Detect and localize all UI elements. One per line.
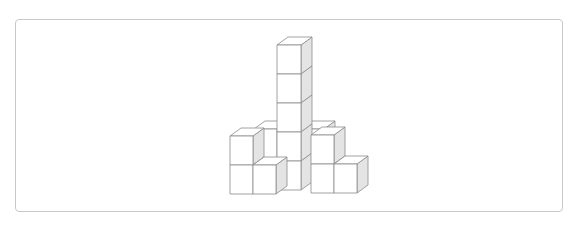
cube-front-face — [334, 164, 357, 193]
cube-front-face — [253, 165, 276, 194]
cube-front-face — [311, 135, 334, 164]
cube-front-face — [230, 165, 253, 194]
cube-front-face — [277, 103, 301, 132]
cube-stack-diagram — [0, 0, 578, 227]
cube-front-face — [311, 164, 334, 193]
cube-front-face — [277, 45, 301, 74]
cube-right-low — [334, 156, 368, 193]
cube-front-face — [230, 136, 253, 165]
cube-front-face — [277, 74, 301, 103]
cube-front-mid — [253, 157, 287, 194]
